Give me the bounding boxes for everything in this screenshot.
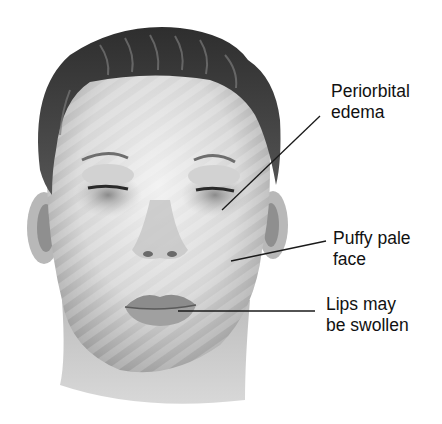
annotation-periorbital-edema: Periorbital edema	[331, 81, 410, 123]
right-upper-lid	[188, 165, 240, 187]
left-upper-lid	[82, 164, 134, 186]
right-nostril	[167, 251, 177, 257]
annotation-line-1: Lips may	[326, 294, 409, 315]
annotation-lips-swollen: Lips may be swollen	[326, 294, 409, 336]
annotation-line-1: Periorbital	[331, 81, 410, 102]
annotation-line-2: be swollen	[326, 315, 409, 336]
annotation-line-1: Puffy pale	[333, 228, 411, 249]
annotation-line-2: face	[333, 249, 411, 270]
annotation-puffy-pale-face: Puffy pale face	[333, 228, 411, 270]
annotation-line-2: edema	[331, 102, 410, 123]
left-nostril	[143, 251, 153, 257]
edema-face-illustration	[0, 0, 442, 424]
